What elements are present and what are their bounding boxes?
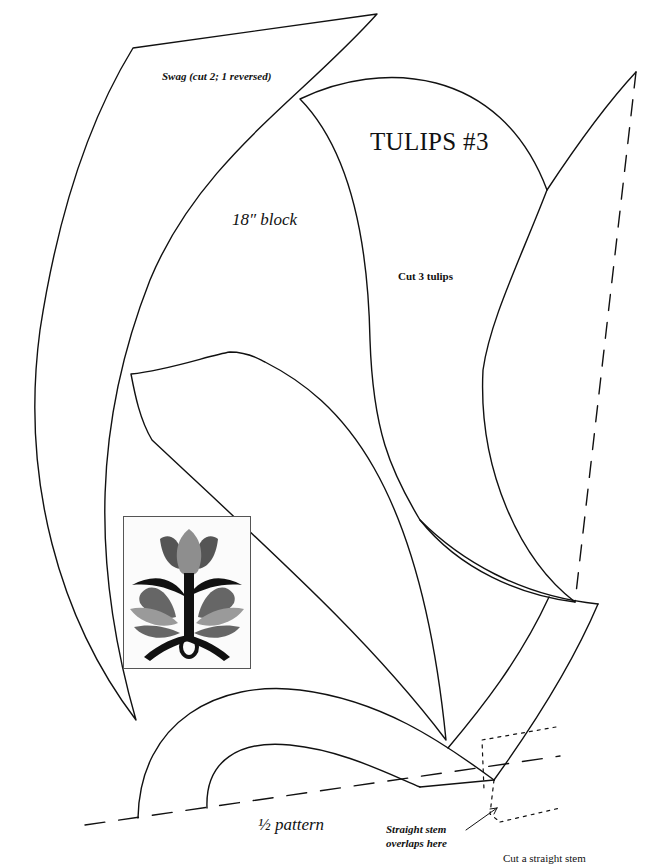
side-petal-outline (547, 72, 636, 190)
stem-overlap-line2: overlaps here (386, 836, 447, 850)
swag-label: Swag (cut 2; 1 reversed) (162, 70, 271, 82)
stem-overlap-note: Straight stem overlaps here (386, 822, 447, 850)
cut-tulips-text: Cut 3 tulips (398, 270, 453, 282)
cut-stem-partial-label: Cut a straight stem (503, 852, 586, 864)
stem-band-top (420, 520, 598, 604)
finished-block-thumbnail (123, 516, 251, 669)
loop-outer-arch (138, 689, 494, 818)
tulip-block-icon (124, 517, 250, 668)
loop-connect (420, 780, 494, 787)
side-petal-dashed-fold (575, 72, 636, 602)
cut-tulips-label: Cut 3 tulips (398, 270, 453, 282)
half-pattern-label: ½ pattern (258, 815, 324, 835)
stem-band-inner (448, 597, 549, 748)
stem-overlap-line1: Straight stem (386, 822, 447, 836)
overlap-arrow-line (466, 808, 497, 830)
block-size-label: 18″ block (232, 210, 297, 230)
page-title: TULIPS #3 (370, 128, 489, 156)
stem-band-outer (494, 604, 598, 780)
tulip-outline (300, 77, 575, 602)
loop-inner-arch (207, 744, 420, 808)
